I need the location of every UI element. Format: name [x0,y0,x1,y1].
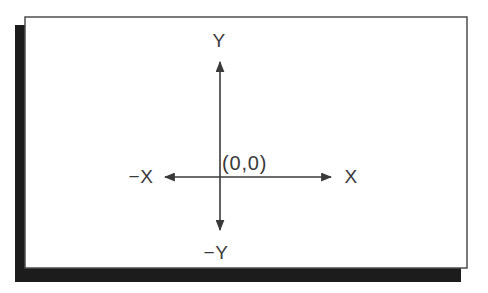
panel [25,17,467,268]
x-positive-label: X [344,166,357,187]
coordinate-diagram: Y −Y X −X (0,0) [0,0,488,293]
origin-label: (0,0) [222,152,267,174]
y-negative-label: −Y [204,242,229,263]
figure-canvas: Y −Y X −X (0,0) [0,0,488,293]
y-positive-label: Y [212,30,225,51]
x-negative-label: −X [129,166,154,187]
